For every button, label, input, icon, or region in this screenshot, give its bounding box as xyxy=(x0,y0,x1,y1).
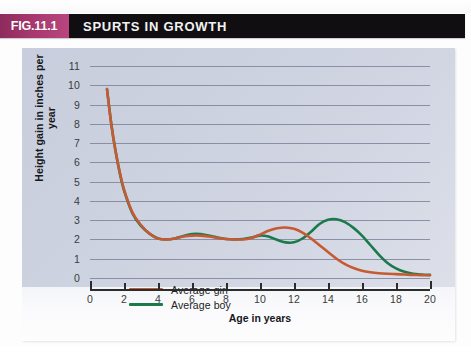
x-axis-tick-labels: 02468101214161820 xyxy=(90,293,430,309)
x-tick-mark-6 xyxy=(192,283,194,289)
y-tick-2: 2 xyxy=(74,233,80,245)
y-tick-10: 10 xyxy=(68,79,80,91)
x-tick-10: 10 xyxy=(254,293,266,305)
x-tick-mark-12 xyxy=(294,283,296,289)
gridline-y-0 xyxy=(90,278,430,279)
x-tick-mark-18 xyxy=(396,283,398,289)
x-tick-mark-0 xyxy=(90,281,92,289)
figure-page: FIG.11.1 SPURTS IN GROWTH Height gain in… xyxy=(0,0,471,356)
y-tick-3: 3 xyxy=(74,214,80,226)
y-tick-8: 8 xyxy=(74,118,80,130)
y-tick-4: 4 xyxy=(74,195,80,207)
x-tick-mark-4 xyxy=(158,283,160,289)
y-tick-1: 1 xyxy=(74,253,80,265)
series-line-average-girl xyxy=(107,89,430,275)
y-tick-6: 6 xyxy=(74,156,80,168)
y-tick-5: 5 xyxy=(74,176,80,188)
x-tick-mark-14 xyxy=(328,283,330,289)
page-bottom-margin xyxy=(0,346,471,356)
chart-panel: Height gain in inches per year 012345678… xyxy=(22,48,455,341)
x-tick-16: 16 xyxy=(356,293,368,305)
x-axis-line xyxy=(90,289,430,291)
data-curves xyxy=(90,66,430,278)
x-tick-8: 8 xyxy=(223,293,229,305)
x-tick-12: 12 xyxy=(288,293,300,305)
x-tick-mark-2 xyxy=(124,283,126,289)
y-axis-tick-labels: 01234567891011 xyxy=(22,66,90,278)
x-tick-mark-16 xyxy=(362,283,364,289)
series-line-average-boy xyxy=(107,89,430,275)
x-tick-mark-10 xyxy=(260,283,262,289)
figure-number-badge: FIG.11.1 xyxy=(0,14,69,38)
x-tick-20: 20 xyxy=(424,293,436,305)
y-tick-0: 0 xyxy=(74,272,80,284)
plot-area xyxy=(90,66,430,278)
y-tick-9: 9 xyxy=(74,99,80,111)
figure-header-bar: FIG.11.1 SPURTS IN GROWTH xyxy=(0,14,465,38)
y-tick-7: 7 xyxy=(74,137,80,149)
page-top-margin xyxy=(0,0,471,13)
x-tick-6: 6 xyxy=(189,293,195,305)
x-tick-mark-20 xyxy=(430,281,432,289)
x-tick-18: 18 xyxy=(390,293,402,305)
x-tick-0: 0 xyxy=(87,293,93,305)
x-tick-2: 2 xyxy=(121,293,127,305)
figure-title: SPURTS IN GROWTH xyxy=(69,14,227,38)
y-tick-11: 11 xyxy=(69,60,80,72)
x-axis-title: Age in years xyxy=(90,312,430,324)
x-tick-4: 4 xyxy=(155,293,161,305)
x-tick-mark-8 xyxy=(226,283,228,289)
x-tick-14: 14 xyxy=(322,293,334,305)
